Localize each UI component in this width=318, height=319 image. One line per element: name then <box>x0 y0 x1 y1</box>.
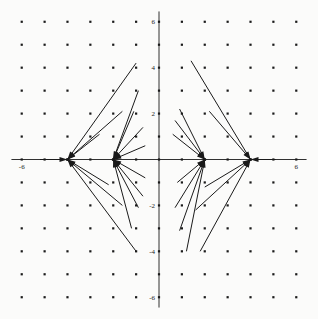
lattice-dot <box>66 112 68 114</box>
lattice-dot <box>272 273 274 275</box>
lattice-dot <box>204 227 206 229</box>
lattice-dot <box>295 44 297 46</box>
lattice-dot <box>66 21 68 23</box>
lattice-dot <box>89 227 91 229</box>
lattice-dot <box>272 135 274 137</box>
lattice-dot <box>112 250 114 252</box>
lattice-dot <box>112 44 114 46</box>
lattice-dot <box>272 44 274 46</box>
lattice-dot <box>44 135 46 137</box>
lattice-dot <box>66 250 68 252</box>
lattice-dot <box>89 44 91 46</box>
lattice-dot <box>204 204 206 206</box>
y-tick-label: 2 <box>152 110 156 118</box>
lattice-dot <box>249 204 251 206</box>
lattice-dot <box>227 112 229 114</box>
y-tick-label: -6 <box>149 294 155 302</box>
lattice-dot <box>21 227 23 229</box>
lattice-dot <box>249 44 251 46</box>
lattice-dot <box>295 273 297 275</box>
lattice-dot <box>44 204 46 206</box>
lattice-dot <box>204 44 206 46</box>
lattice-dot <box>295 250 297 252</box>
lattice-dot <box>135 44 137 46</box>
lattice-dot <box>272 181 274 183</box>
lattice-dot <box>227 227 229 229</box>
lattice-dot <box>204 112 206 114</box>
lattice-dot <box>181 273 183 275</box>
lattice-dot <box>21 204 23 206</box>
y-tick-label: -2 <box>149 202 155 210</box>
lattice-dot <box>135 227 137 229</box>
lattice-dot <box>181 181 183 183</box>
lattice-dot <box>89 204 91 206</box>
lattice-dot <box>181 44 183 46</box>
y-tick-label: 4 <box>152 64 156 72</box>
lattice-dot <box>112 204 114 206</box>
lattice-dot <box>21 90 23 92</box>
lattice-dot <box>112 112 114 114</box>
lattice-dot <box>89 135 91 137</box>
lattice-dot <box>272 227 274 229</box>
lattice-dot <box>249 90 251 92</box>
lattice-dot <box>204 21 206 23</box>
lattice-dot <box>204 250 206 252</box>
lattice-dot <box>21 44 23 46</box>
lattice-dot <box>135 67 137 69</box>
lattice-dot <box>112 296 114 298</box>
lattice-dot <box>295 204 297 206</box>
x-tick-label: 6 <box>295 163 299 171</box>
lattice-dot <box>249 296 251 298</box>
lattice-dot <box>44 44 46 46</box>
lattice-dot <box>227 296 229 298</box>
lattice-dot <box>249 112 251 114</box>
lattice-dot <box>295 227 297 229</box>
lattice-dot <box>44 296 46 298</box>
lattice-dot <box>181 135 183 137</box>
lattice-dot <box>21 67 23 69</box>
lattice-dot <box>21 135 23 137</box>
lattice-dot <box>112 67 114 69</box>
lattice-dot <box>89 67 91 69</box>
lattice-dot <box>44 67 46 69</box>
lattice-dot <box>249 227 251 229</box>
lattice-dot <box>204 273 206 275</box>
lattice-dot <box>66 67 68 69</box>
lattice-dot <box>227 67 229 69</box>
lattice-dot <box>66 204 68 206</box>
lattice-dot <box>181 21 183 23</box>
lattice-dot <box>21 296 23 298</box>
lattice-dot <box>135 273 137 275</box>
lattice-dot <box>249 135 251 137</box>
lattice-dot <box>66 296 68 298</box>
lattice-dot <box>249 181 251 183</box>
lattice-dot <box>135 21 137 23</box>
lattice-dot <box>44 273 46 275</box>
lattice-dot <box>249 273 251 275</box>
lattice-dot <box>272 250 274 252</box>
lattice-dot <box>295 67 297 69</box>
lattice-dot <box>112 90 114 92</box>
lattice-dot <box>227 44 229 46</box>
lattice-dot <box>272 90 274 92</box>
lattice-dot <box>66 273 68 275</box>
phase-portrait-figure: 642-2-4-6-66 <box>0 0 318 319</box>
lattice-dot <box>295 135 297 137</box>
lattice-dot <box>272 296 274 298</box>
lattice-dot <box>249 250 251 252</box>
lattice-dot <box>66 135 68 137</box>
equilibrium-point <box>66 158 69 161</box>
lattice-dot <box>89 181 91 183</box>
lattice-dot <box>66 181 68 183</box>
lattice-dot <box>44 227 46 229</box>
lattice-dot <box>89 21 91 23</box>
lattice-dot <box>89 90 91 92</box>
lattice-dot <box>66 227 68 229</box>
lattice-dot <box>21 181 23 183</box>
plot-canvas: 642-2-4-6-66 <box>0 0 318 319</box>
lattice-dot <box>135 181 137 183</box>
y-tick-label: -4 <box>149 248 155 256</box>
lattice-dot <box>227 273 229 275</box>
x-tick-label: -6 <box>19 163 25 171</box>
lattice-dot <box>21 250 23 252</box>
